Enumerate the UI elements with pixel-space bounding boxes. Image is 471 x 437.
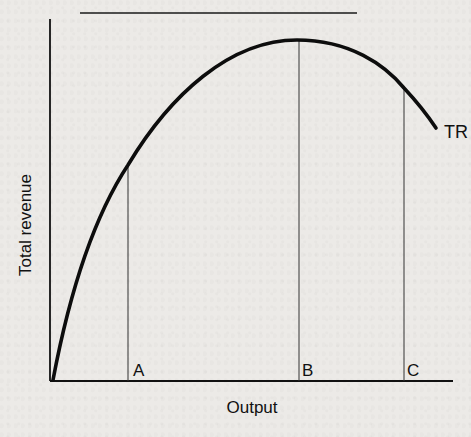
marker-label-b: B	[302, 362, 313, 379]
total-revenue-diagram	[0, 0, 471, 437]
curve-label-tr: TR	[444, 123, 468, 141]
tr-curve	[53, 40, 436, 380]
y-axis-label: Total revenue	[16, 174, 36, 276]
marker-label-a: A	[133, 362, 144, 379]
x-axis-label: Output	[226, 398, 277, 418]
marker-label-c: C	[407, 362, 419, 379]
